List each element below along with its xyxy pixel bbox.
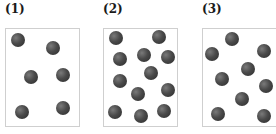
particle bbox=[131, 87, 145, 101]
panel-label-3: (3) bbox=[202, 2, 222, 16]
particle bbox=[46, 41, 60, 55]
particle bbox=[15, 105, 29, 119]
particle bbox=[11, 33, 25, 47]
particle bbox=[109, 31, 123, 45]
particle bbox=[235, 92, 249, 106]
particle bbox=[259, 79, 273, 93]
particle bbox=[137, 48, 151, 62]
panel-label-1: (1) bbox=[5, 2, 25, 16]
particle bbox=[211, 107, 225, 121]
particle bbox=[257, 109, 271, 123]
particle bbox=[215, 72, 229, 86]
particle bbox=[161, 50, 175, 64]
particle bbox=[225, 32, 239, 46]
particle bbox=[161, 83, 175, 97]
particle bbox=[56, 68, 70, 82]
particle bbox=[241, 62, 255, 76]
particle bbox=[113, 74, 127, 88]
particle bbox=[257, 44, 271, 58]
particle bbox=[205, 47, 219, 61]
particle bbox=[157, 104, 171, 118]
particle bbox=[108, 105, 122, 119]
particle bbox=[152, 30, 166, 44]
particle bbox=[24, 70, 38, 84]
particle bbox=[56, 101, 70, 115]
particle bbox=[144, 66, 158, 80]
particle bbox=[113, 52, 127, 66]
panel-label-2: (2) bbox=[103, 2, 123, 16]
particle bbox=[134, 109, 148, 123]
